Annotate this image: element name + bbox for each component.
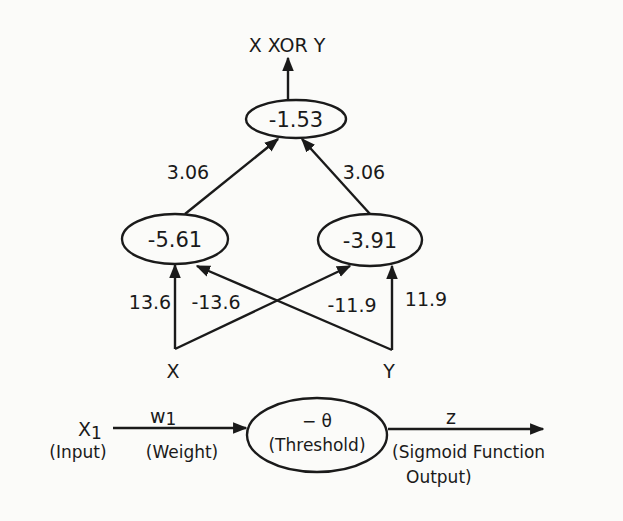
weight-y-h1: -11.9 (327, 294, 376, 316)
input-y-label: Y (382, 360, 395, 382)
legend-threshold-desc: (Threshold) (268, 435, 365, 455)
hidden-node-2-threshold: -3.91 (343, 229, 397, 253)
hidden-node-1-threshold: -5.61 (148, 228, 202, 252)
legend-output-desc-line1: (Sigmoid Function (392, 442, 545, 462)
legend-threshold-symbol: − θ (302, 411, 332, 431)
xor-network-diagram: X XOR Y 3.06 3.06 -1.53 13.6 -13.6 -11.9… (0, 0, 623, 521)
legend-input-symbol: X1 (78, 418, 102, 443)
legend-weight-symbol: w1 (150, 405, 176, 429)
input-x-label: X (166, 360, 179, 382)
weight-y-h2: 11.9 (405, 288, 447, 310)
legend-weight-desc: (Weight) (146, 442, 219, 462)
legend-output-desc-line2: Output) (406, 467, 472, 487)
output-node-threshold: -1.53 (269, 108, 323, 132)
weight-h2-output: 3.06 (343, 161, 385, 183)
legend-input-desc: (Input) (49, 442, 106, 462)
weight-x-h1: 13.6 (129, 291, 171, 313)
weight-x-h2: -13.6 (191, 291, 240, 313)
legend-output-symbol: z (446, 406, 456, 428)
output-label: X XOR Y (249, 34, 326, 56)
weight-h1-output: 3.06 (167, 161, 209, 183)
